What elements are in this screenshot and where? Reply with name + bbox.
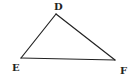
triangle-diagram: D E F [0, 0, 134, 82]
vertex-label-d: D [54, 1, 63, 12]
edge-fd [56, 14, 115, 60]
edge-de [21, 14, 56, 58]
edge-ef [21, 58, 115, 60]
vertex-label-e: E [12, 62, 20, 73]
vertex-label-f: F [120, 65, 127, 76]
